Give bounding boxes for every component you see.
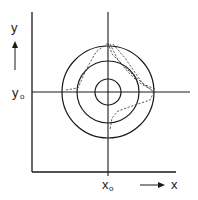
x-origin-subscript: o — [109, 184, 114, 193]
dashed-path-upper-2 — [110, 44, 152, 90]
diagram-canvas: y y o x o x — [0, 0, 198, 200]
x-origin-label: x — [102, 177, 109, 192]
x-arrow-icon — [158, 182, 165, 188]
dashed-path-upper-3 — [113, 44, 155, 89]
y-origin-subscript: o — [20, 92, 25, 101]
y-axis-label: y — [11, 20, 18, 35]
y-origin-label: y — [12, 85, 19, 100]
x-axis-label: x — [171, 177, 178, 192]
dashed-path-left — [66, 43, 108, 90]
y-arrow-icon — [12, 41, 18, 48]
